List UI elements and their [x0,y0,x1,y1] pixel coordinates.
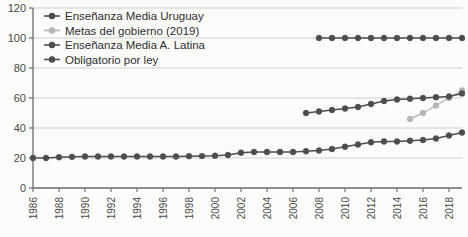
data-point [446,94,452,100]
series-1 [407,88,465,122]
data-point [303,110,309,116]
data-point [342,144,348,150]
data-point [381,139,387,145]
legend-marker-dot [49,13,55,19]
data-point [381,98,387,104]
legend-marker-dot [49,27,55,33]
x-tick-label: 1998 [184,197,195,220]
data-point [277,149,283,155]
data-point [446,35,452,41]
legend-marker-dot [49,42,55,48]
y-tick-label: 100 [8,32,26,44]
data-point [446,133,452,139]
x-tick-label: 2004 [262,197,273,220]
x-tick-label: 2018 [444,197,455,220]
data-point [225,152,231,158]
chart-container: 0204060801001201986198819901992199419961… [0,0,468,237]
data-point [30,155,36,161]
y-tick-label: 60 [14,92,26,104]
data-point [433,103,439,109]
x-tick-label: 1996 [158,197,169,220]
data-point [95,154,101,160]
data-point [316,109,322,115]
data-point [407,96,413,102]
data-point [199,153,205,159]
x-tick-label: 1986 [28,197,39,220]
data-point [108,154,114,160]
data-point [355,104,361,110]
x-tick-label: 1994 [132,197,143,220]
y-tick-label: 80 [14,62,26,74]
data-point [355,35,361,41]
data-point [368,101,374,107]
x-tick-label: 2010 [340,197,351,220]
x-tick-label: 2000 [210,197,221,220]
legend-label: Obligatorio por ley [65,54,159,66]
data-point [407,35,413,41]
data-point [342,35,348,41]
x-tick-label: 1992 [106,197,117,220]
y-axis: 020406080100120 [8,2,33,194]
data-point [407,116,413,122]
y-tick-label: 40 [14,122,26,134]
series-3 [316,35,465,41]
data-point [329,107,335,113]
data-point [459,35,465,41]
data-point [121,154,127,160]
y-tick-label: 20 [14,152,26,164]
line-chart: 0204060801001201986198819901992199419961… [0,0,468,237]
legend-label: Metas del gobierno (2019) [65,25,199,37]
data-point [329,146,335,152]
data-point [82,154,88,160]
x-tick-label: 2012 [366,197,377,220]
data-point [251,149,257,155]
data-point [56,154,62,160]
data-point [173,154,179,160]
y-tick-label: 120 [8,2,26,14]
data-point [394,139,400,145]
data-point [381,35,387,41]
data-point [407,138,413,144]
data-point [212,153,218,159]
y-tick-label: 0 [20,182,26,194]
legend-marker-dot [49,56,55,62]
x-tick-label: 2002 [236,197,247,220]
x-tick-label: 2016 [418,197,429,220]
legend-label: Enseñanza Media A. Latina [65,39,206,51]
data-point [459,130,465,136]
data-point [420,137,426,143]
data-point [394,35,400,41]
data-point [368,139,374,145]
x-tick-label: 2008 [314,197,325,220]
data-point [238,150,244,156]
data-point [342,106,348,112]
data-point [134,154,140,160]
x-tick-label: 2014 [392,197,403,220]
data-point [368,35,374,41]
data-point [355,142,361,148]
data-point [160,154,166,160]
series-0 [30,130,465,161]
data-point [329,35,335,41]
data-point [69,154,75,160]
data-point [303,148,309,154]
data-point [420,110,426,116]
data-point [433,94,439,100]
data-point [43,155,49,161]
data-point [316,148,322,154]
legend-label: Enseñanza Media Uruguay [65,10,204,22]
data-point [264,149,270,155]
x-tick-label: 1990 [80,197,91,220]
x-axis: 1986198819901992199419961998200020022004… [28,188,455,219]
data-point [420,95,426,101]
data-point [290,149,296,155]
x-tick-label: 1988 [54,197,65,220]
data-point [147,154,153,160]
data-point [394,97,400,103]
data-point [420,35,426,41]
x-tick-label: 2006 [288,197,299,220]
data-point [459,91,465,97]
data-point [433,35,439,41]
data-point [433,136,439,142]
data-point [186,153,192,159]
